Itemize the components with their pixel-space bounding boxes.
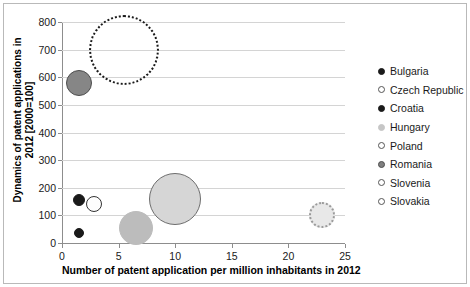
legend-marker-icon [378,179,385,186]
x-tick-mark [232,244,233,248]
x-tick-label: 0 [59,250,65,262]
legend-label: Slovakia [390,195,430,207]
bubble-poland[interactable] [149,173,201,225]
legend-label: Bulgaria [390,65,429,77]
y-tick-label: 300 [38,154,56,166]
legend-marker-icon [378,142,385,149]
gridline-y [62,160,345,161]
y-tick-mark [58,160,62,161]
legend-label: Poland [390,140,423,152]
legend-label: Slovenia [390,177,430,189]
y-tick-label: 0 [50,237,56,249]
x-tick-label: 15 [226,250,238,262]
y-tick-mark [58,105,62,106]
legend-marker-icon [378,105,385,112]
plot-area [62,22,345,243]
x-axis-title: Number of patent application per million… [62,264,345,276]
legend-item-croatia[interactable]: Croatia [378,99,466,118]
x-tick-mark [175,244,176,248]
bubble-chart-figure: Dynamics of patent applications in 2012 … [0,0,470,287]
legend-label: Romania [390,158,432,170]
legend-label: Hungary [390,121,430,133]
x-tick-label: 25 [339,250,351,262]
x-tick-mark [288,244,289,248]
bubble-czech-republic[interactable] [86,196,102,212]
x-tick-mark [345,244,346,248]
legend-marker-icon [378,161,385,168]
gridline-y [62,133,345,134]
legend-item-poland[interactable]: Poland [378,136,466,155]
bubble-slovenia[interactable] [89,15,159,85]
y-tick-mark [58,50,62,51]
legend-item-czech-republic[interactable]: Czech Republic [378,81,466,100]
legend-label: Czech Republic [390,84,464,96]
legend-item-hungary[interactable]: Hungary [378,118,466,137]
legend-marker-icon [378,86,385,93]
bubble-bulgaria[interactable] [73,194,85,206]
y-tick-mark [58,188,62,189]
x-tick-label: 10 [169,250,181,262]
y-tick-mark [58,133,62,134]
x-tick-label: 20 [283,250,295,262]
chart-legend: BulgariaCzech RepublicCroatiaHungaryPola… [378,62,466,211]
legend-item-bulgaria[interactable]: Bulgaria [378,62,466,81]
y-tick-label: 400 [38,127,56,139]
legend-item-slovenia[interactable]: Slovenia [378,174,466,193]
y-tick-label: 200 [38,182,56,194]
gridline-y [62,215,345,216]
y-tick-mark [58,215,62,216]
legend-marker-icon [378,198,385,205]
legend-item-romania[interactable]: Romania [378,155,466,174]
bubble-croatia[interactable] [74,228,84,238]
x-tick-mark [119,244,120,248]
y-tick-mark [58,77,62,78]
bubble-slovakia[interactable] [309,202,335,228]
gridline-y [62,243,345,244]
x-tick-label: 5 [116,250,122,262]
gridline-y [62,105,345,106]
bubble-hungary[interactable] [119,211,153,245]
y-tick-mark [58,22,62,23]
y-axis-tick-labels: 0100200300400500600700800 [0,0,56,287]
y-tick-label: 500 [38,99,56,111]
legend-label: Croatia [390,102,424,114]
legend-marker-icon [378,124,385,131]
y-tick-label: 800 [38,16,56,28]
x-tick-mark [62,244,63,248]
y-tick-label: 100 [38,209,56,221]
y-tick-label: 600 [38,71,56,83]
y-tick-label: 700 [38,44,56,56]
legend-marker-icon [378,68,385,75]
bubble-romania[interactable] [66,70,92,96]
gridline-y [62,188,345,189]
legend-item-slovakia[interactable]: Slovakia [378,192,466,211]
